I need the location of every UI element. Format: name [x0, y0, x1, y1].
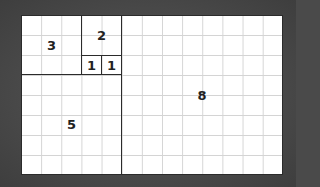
square-label: 1 — [87, 58, 96, 73]
square-label: 8 — [197, 88, 206, 103]
square-1b: 1 — [101, 55, 122, 75]
square-label: 2 — [97, 28, 106, 43]
square-3: 3 — [21, 15, 82, 75]
square-label: 1 — [107, 58, 116, 73]
square-1a: 1 — [81, 55, 102, 75]
grid-board: 3 2 1 1 5 8 — [21, 15, 283, 175]
square-label: 5 — [67, 117, 76, 132]
square-2: 2 — [81, 15, 122, 56]
square-5: 5 — [21, 74, 122, 175]
square-label: 3 — [47, 38, 56, 53]
square-8: 8 — [121, 15, 283, 175]
